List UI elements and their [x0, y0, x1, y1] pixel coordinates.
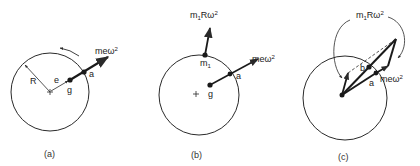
- label-a: a: [89, 69, 94, 79]
- caption-a: (a): [44, 149, 55, 159]
- mass-force-arrow: [205, 28, 210, 55]
- label-force: meω2: [380, 74, 404, 84]
- label-b: b: [360, 63, 365, 73]
- label-mass-force: m1Rω2: [190, 10, 218, 21]
- label-mass-force: m1Rω2: [356, 10, 384, 21]
- radius-arrow: [25, 65, 50, 92]
- center-cross-icon: [193, 91, 199, 97]
- point-a-dot: [81, 69, 86, 74]
- label-r: R: [30, 76, 37, 86]
- caption-c: (c): [338, 152, 349, 162]
- caption-b: (b): [191, 150, 202, 160]
- label-g: g: [67, 85, 72, 95]
- label-e: e: [54, 75, 59, 85]
- point-b-dot: [366, 64, 371, 69]
- point-a-dot: [374, 71, 379, 76]
- panel-c: m1Rω2 b a meω2 (c): [303, 10, 405, 162]
- panel-a: R e g a meω2 (a): [11, 46, 119, 159]
- label-force: meω2: [252, 54, 276, 64]
- rotor-circle: [159, 55, 239, 135]
- dashed-guide: [348, 39, 396, 73]
- leader-arrow-right: [388, 17, 405, 58]
- label-m1: m1: [200, 58, 212, 69]
- rotor-balance-diagram: R e g a meω2 (a) m1Rω2 m1 g a meω2 (b): [0, 0, 420, 166]
- label-a: a: [236, 71, 241, 81]
- force-arrow: [210, 59, 258, 85]
- rotor-circle: [303, 56, 387, 140]
- label-g: g: [208, 89, 213, 99]
- point-a-dot: [228, 72, 233, 77]
- leader-arrow-left: [334, 20, 350, 78]
- panel-b: m1Rω2 m1 g a meω2 (b): [159, 10, 276, 160]
- label-force: meω2: [95, 46, 119, 56]
- label-a: a: [369, 78, 374, 88]
